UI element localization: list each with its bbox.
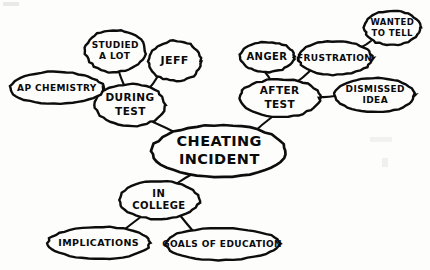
node-label-studied-a-lot: STUDIED	[92, 40, 139, 50]
node-label-cheating-incident: INCIDENT	[179, 151, 260, 167]
node-jeff[interactable]: JEFF	[148, 40, 201, 81]
node-label-during-test: DURING	[105, 91, 154, 103]
nodes-layer: CHEATINGINCIDENTDURINGTESTAFTERTESTINCOL…	[10, 11, 421, 261]
edge-studied-a-lot-to-during-test	[119, 72, 124, 85]
mindmap-canvas: CHEATINGINCIDENTDURINGTESTAFTERTESTINCOL…	[0, 0, 430, 270]
node-label-cheating-incident: CHEATING	[177, 133, 262, 149]
edge-dismissed-idea-to-after-test	[320, 96, 335, 97]
node-label-after-test: TEST	[264, 98, 295, 110]
node-wanted-to-tell[interactable]: WANTEDTO TELL	[364, 11, 422, 45]
node-label-wanted-to-tell: WANTED	[370, 17, 414, 27]
node-label-dismissed-idea: DISMISSED	[346, 84, 405, 94]
node-label-in-college: COLLEGE	[132, 200, 185, 211]
node-label-in-college: IN	[152, 188, 165, 199]
node-ap-chemistry[interactable]: AP CHEMISTRY	[10, 71, 104, 103]
node-label-implications: IMPLICATIONS	[58, 237, 139, 248]
node-implications[interactable]: IMPLICATIONS	[47, 227, 150, 259]
mindmap-graph: CHEATINGINCIDENTDURINGTESTAFTERTESTINCOL…	[0, 0, 430, 270]
node-label-anger: ANGER	[246, 51, 287, 62]
node-label-studied-a-lot: A LOT	[99, 51, 131, 61]
node-label-during-test: TEST	[115, 105, 146, 117]
node-label-after-test: AFTER	[260, 84, 300, 96]
node-label-goals-of-education: GOALS OF EDUCATION	[162, 239, 282, 249]
node-label-frustration: FRUSTRATION	[297, 53, 372, 63]
node-label-wanted-to-tell: TO TELL	[372, 28, 413, 38]
node-label-jeff: JEFF	[160, 54, 189, 67]
node-frustration[interactable]: FRUSTRATION	[297, 41, 374, 75]
node-label-dismissed-idea: IDEA	[362, 95, 388, 105]
node-after-test[interactable]: AFTERTEST	[239, 79, 320, 117]
node-studied-a-lot[interactable]: STUDIEDA LOT	[85, 30, 146, 72]
node-anger[interactable]: ANGER	[240, 42, 295, 72]
node-cheating-incident[interactable]: CHEATINGINCIDENT	[151, 125, 286, 177]
node-goals-of-education[interactable]: GOALS OF EDUCATION	[162, 228, 282, 260]
node-label-ap-chemistry: AP CHEMISTRY	[17, 83, 97, 93]
node-dismissed-idea[interactable]: DISMISSEDIDEA	[334, 78, 415, 112]
node-in-college[interactable]: INCOLLEGE	[119, 181, 200, 219]
edge-implications-to-in-college	[125, 216, 142, 229]
